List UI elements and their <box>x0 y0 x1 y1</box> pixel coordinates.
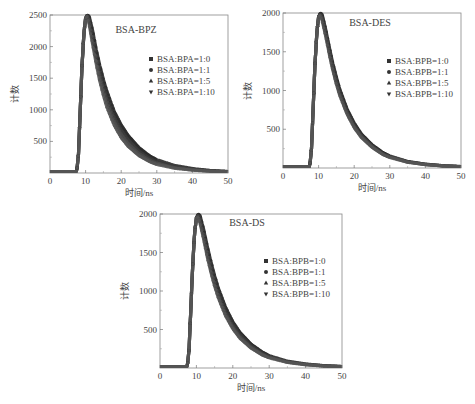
legend-marker-circle-icon <box>264 270 268 274</box>
y-tick-label: 1000 <box>139 286 158 296</box>
y-tick-label: 1500 <box>139 248 158 258</box>
y-tick-label: 2000 <box>262 8 281 18</box>
legend-label: BSA:BPB=1:5 <box>272 278 326 288</box>
x-tick-label: 50 <box>457 171 467 181</box>
y-axis-label: 计数 <box>9 85 20 103</box>
chart-bsa-ds: 01020304050500100015002000时间/ns计数BSA-DSB… <box>119 209 347 393</box>
legend-label: BSA:BPB=1:0 <box>272 256 326 266</box>
x-tick-label: 0 <box>48 176 53 186</box>
legend: BSA:BPB=1:0BSA:BPB=1:1BSA:BPB=1:5BSA:BPB… <box>387 56 454 99</box>
x-axis-label: 时间/ns <box>237 382 266 393</box>
legend-marker-triangle-down-icon <box>149 90 153 94</box>
x-tick-label: 10 <box>314 171 324 181</box>
x-axis-label: 时间/ns <box>125 187 154 198</box>
x-tick-label: 30 <box>265 371 275 381</box>
legend-label: BSA:BPB=1:1 <box>395 67 449 77</box>
x-tick-label: 40 <box>188 176 198 186</box>
x-tick-label: 30 <box>152 176 162 186</box>
x-tick-label: 40 <box>421 171 431 181</box>
legend-marker-triangle-down-icon <box>387 92 391 96</box>
y-tick-label: 500 <box>267 124 281 134</box>
x-tick-label: 40 <box>301 371 311 381</box>
x-tick-label: 10 <box>81 176 91 186</box>
legend: BSA:BPB=1:0BSA:BPB=1:1BSA:BPB=1:5BSA:BPB… <box>264 256 331 299</box>
fluorescence-decay-figure: 010203040505001000150020002500时间/ns计数BSA… <box>0 0 475 404</box>
legend-label: BSA:BPB=1:5 <box>395 78 449 88</box>
x-tick-label: 50 <box>338 371 348 381</box>
y-tick-label: 1000 <box>29 105 48 115</box>
x-axis-label: 时间/ns <box>358 182 387 193</box>
x-tick-label: 20 <box>228 371 238 381</box>
chart-bsa-bpz: 010203040505001000150020002500时间/ns计数BSA… <box>0 0 475 404</box>
x-tick-label: 0 <box>281 171 286 181</box>
legend-label: BSA:BPA=1:1 <box>157 65 210 75</box>
y-axis-label: 计数 <box>242 82 253 100</box>
x-tick-label: 20 <box>117 176 127 186</box>
x-tick-label: 30 <box>385 171 395 181</box>
y-tick-label: 2000 <box>139 209 158 219</box>
y-tick-label: 1500 <box>262 47 281 57</box>
legend-label: BSA:BPA=1:5 <box>157 76 211 86</box>
y-tick-label: 500 <box>144 325 158 335</box>
x-tick-label: 20 <box>350 171 360 181</box>
legend-label: BSA:BPB=1:10 <box>395 89 454 99</box>
y-axis-label: 计数 <box>119 282 130 300</box>
legend-marker-triangle-up-icon <box>149 79 153 83</box>
legend-label: BSA:BPB=1:10 <box>272 289 331 299</box>
y-tick-label: 1000 <box>262 86 281 96</box>
x-tick-label: 50 <box>224 176 234 186</box>
legend-label: BSA:BPB=1:1 <box>272 267 326 277</box>
chart-bsa-bpz: 010203040505001000150020002500时间/ns计数BSA… <box>9 10 233 198</box>
y-tick-label: 2500 <box>29 10 48 20</box>
legend-marker-triangle-up-icon <box>264 281 268 285</box>
chart-title: BSA-DS <box>229 217 265 228</box>
legend-marker-circle-icon <box>387 70 391 74</box>
y-tick-label: 1500 <box>29 73 48 83</box>
chart-title: BSA-DES <box>349 17 391 28</box>
legend-marker-triangle-up-icon <box>387 81 391 85</box>
legend: BSA:BPA=1:0BSA:BPA=1:1BSA:BPA=1:5BSA:BPA… <box>149 54 215 97</box>
x-tick-label: 0 <box>158 371 163 381</box>
chart-bsa-des: 01020304050500100015002000时间/ns计数BSA-DES… <box>242 8 466 193</box>
legend-label: BSA:BPA=1:0 <box>157 54 211 64</box>
legend-marker-square-icon <box>149 57 153 61</box>
y-tick-label: 2000 <box>29 42 48 52</box>
legend-label: BSA:BPA=1:10 <box>157 87 215 97</box>
legend-marker-circle-icon <box>149 68 153 72</box>
x-tick-label: 10 <box>192 371 202 381</box>
legend-marker-square-icon <box>264 259 268 263</box>
legend-marker-triangle-down-icon <box>264 292 268 296</box>
legend-marker-square-icon <box>387 59 391 63</box>
chart-title: BSA-BPZ <box>115 24 156 35</box>
y-tick-label: 500 <box>34 136 48 146</box>
legend-label: BSA:BPB=1:0 <box>395 56 449 66</box>
